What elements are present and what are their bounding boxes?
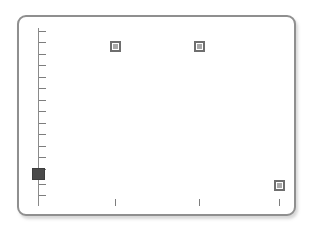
y-axis-tick: [39, 111, 46, 112]
data-point-marker[interactable]: [274, 180, 285, 191]
y-axis-tick: [39, 31, 46, 32]
chart-description: Scatter plot with a vertical axis bearin…: [0, 16, 1, 17]
data-point-marker-highlighted[interactable]: [32, 168, 45, 180]
y-axis-tick: [39, 65, 46, 66]
y-axis-tick: [39, 88, 46, 89]
y-axis-tick: [39, 42, 46, 43]
y-axis-tick: [39, 123, 46, 124]
data-point-marker[interactable]: [194, 41, 205, 52]
x-axis-tick: [199, 199, 200, 206]
x-axis-tick: [279, 199, 280, 206]
y-axis-tick: [39, 100, 46, 101]
data-point-marker[interactable]: [110, 41, 121, 52]
y-axis-tick: [39, 146, 46, 147]
y-axis-tick: [39, 134, 46, 135]
y-axis-tick: [39, 184, 46, 185]
plot-area: [19, 17, 294, 214]
y-axis-tick: [39, 77, 46, 78]
y-axis-tick: [39, 195, 46, 196]
y-axis-tick: [39, 157, 46, 158]
x-axis-tick: [115, 199, 116, 206]
plot-frame: [17, 15, 296, 216]
screenshot-root: Scatter plot with a vertical axis bearin…: [0, 0, 317, 236]
y-axis-tick: [39, 54, 46, 55]
